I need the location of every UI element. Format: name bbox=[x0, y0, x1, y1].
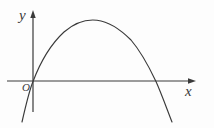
parabola-figure: y x O bbox=[0, 0, 214, 128]
y-axis-label: y bbox=[19, 8, 26, 23]
coordinate-plot bbox=[0, 0, 214, 128]
origin-label: O bbox=[22, 82, 30, 93]
parabola-curve bbox=[22, 20, 172, 122]
y-axis-arrowhead bbox=[30, 10, 35, 18]
x-axis-label: x bbox=[185, 84, 192, 99]
